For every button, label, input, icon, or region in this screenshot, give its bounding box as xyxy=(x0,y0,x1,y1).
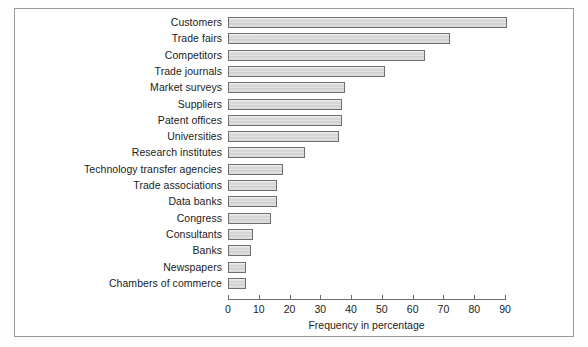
bar xyxy=(228,229,253,240)
bar xyxy=(228,131,339,142)
bar-category-label: Data banks xyxy=(0,195,222,208)
x-axis-tick-label: 40 xyxy=(339,303,363,315)
x-axis-tick-mark xyxy=(228,295,229,299)
x-axis-tick-mark xyxy=(351,295,352,299)
x-axis-tick-mark xyxy=(443,295,444,299)
x-axis-tick-mark xyxy=(413,295,414,299)
bar-category-label: Consultants xyxy=(0,228,222,241)
bar-category-label: Competitors xyxy=(0,49,222,62)
x-axis-tick-label: 50 xyxy=(370,303,394,315)
x-axis-tick-label: 10 xyxy=(247,303,271,315)
bar xyxy=(228,164,283,175)
bar-category-label: Congress xyxy=(0,212,222,225)
x-axis-tick-label: 0 xyxy=(216,303,240,315)
x-axis-tick-label: 20 xyxy=(278,303,302,315)
x-axis-title: Frequency in percentage xyxy=(188,319,545,331)
bar-category-label: Market surveys xyxy=(0,81,222,94)
bar xyxy=(228,245,251,256)
x-axis-tick-label: 30 xyxy=(308,303,332,315)
bar xyxy=(228,196,277,207)
x-axis-tick-mark xyxy=(259,295,260,299)
bar-category-label: Trade fairs xyxy=(0,32,222,45)
bar-category-label: Trade journals xyxy=(0,65,222,78)
bar xyxy=(228,33,450,44)
x-axis-tick-mark xyxy=(474,295,475,299)
bar xyxy=(228,66,385,77)
bar-category-label: Patent offices xyxy=(0,114,222,127)
bar-category-label: Banks xyxy=(0,244,222,257)
bar xyxy=(228,115,342,126)
bar-category-label: Newspapers xyxy=(0,261,222,274)
x-axis-tick-label: 70 xyxy=(431,303,455,315)
x-axis-tick-mark xyxy=(320,295,321,299)
plot-area: CustomersTrade fairsCompetitorsTrade jou… xyxy=(0,0,588,347)
bar-category-label: Universities xyxy=(0,130,222,143)
bar xyxy=(228,82,345,93)
x-axis-tick-label: 80 xyxy=(462,303,486,315)
bar xyxy=(228,180,277,191)
x-axis-line xyxy=(228,299,506,300)
bar-category-label: Research institutes xyxy=(0,146,222,159)
bar xyxy=(228,50,425,61)
x-axis-tick-label: 90 xyxy=(493,303,517,315)
x-axis-tick-mark xyxy=(382,295,383,299)
bar xyxy=(228,213,271,224)
bar-category-label: Trade associations xyxy=(0,179,222,192)
bar xyxy=(228,99,342,110)
bar-category-label: Customers xyxy=(0,16,222,29)
bar-category-label: Suppliers xyxy=(0,98,222,111)
chart-figure: CustomersTrade fairsCompetitorsTrade jou… xyxy=(0,0,588,347)
x-axis-tick-label: 60 xyxy=(401,303,425,315)
bar xyxy=(228,278,246,289)
x-axis-tick-mark xyxy=(505,295,506,299)
bar-category-label: Technology transfer agencies xyxy=(0,163,222,176)
bar-category-label: Chambers of commerce xyxy=(0,277,222,290)
x-axis-tick-mark xyxy=(290,295,291,299)
bar xyxy=(228,17,507,28)
bar xyxy=(228,147,305,158)
bar xyxy=(228,262,246,273)
